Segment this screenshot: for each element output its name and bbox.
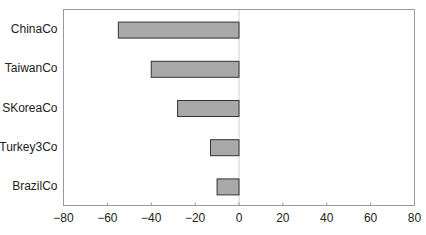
x-tick-label: 40	[320, 211, 334, 225]
bar-turkey3co	[210, 140, 239, 156]
y-axis: ChinaCoTaiwanCoSKoreaCoTurkey3CoBrazilCo	[0, 22, 58, 193]
y-tick-label: TaiwanCo	[5, 61, 58, 75]
x-tick-label: 20	[276, 211, 290, 225]
x-tick-label: −40	[141, 211, 162, 225]
bar-taiwanco	[151, 61, 239, 77]
x-tick-label: 0	[236, 211, 243, 225]
bar-chinaco	[118, 22, 239, 38]
y-tick-label: Turkey3Co	[0, 140, 58, 154]
x-tick-label: −80	[53, 211, 74, 225]
x-tick-label: 60	[364, 211, 378, 225]
x-tick-label: −20	[185, 211, 206, 225]
bar-chart: −80−60−40−20020406080 ChinaCoTaiwanCoSKo…	[0, 0, 426, 235]
bar-skoreaco	[178, 101, 239, 117]
bars-group	[118, 22, 239, 195]
y-tick-label: ChinaCo	[11, 22, 58, 36]
y-tick-label: SKoreaCo	[2, 101, 58, 115]
bar-brazilco	[217, 179, 239, 195]
x-tick-label: 80	[408, 211, 422, 225]
x-tick-label: −60	[97, 211, 118, 225]
y-tick-label: BrazilCo	[12, 179, 58, 193]
